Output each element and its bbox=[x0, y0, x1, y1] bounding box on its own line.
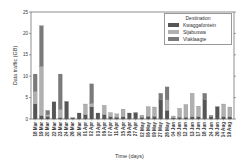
bar-segment bbox=[178, 117, 182, 119]
bar-segment bbox=[71, 118, 75, 119]
bar-segment bbox=[115, 117, 119, 119]
bar-segment bbox=[171, 118, 175, 119]
legend-swatch bbox=[168, 37, 179, 41]
y-tick-label: 0 bbox=[25, 117, 28, 122]
bar-segment bbox=[115, 114, 119, 117]
y-tick-label: 20 bbox=[23, 31, 29, 36]
x-tick-label: 03 Apr bbox=[96, 122, 101, 136]
bar-segment bbox=[222, 117, 226, 119]
bar-segment bbox=[203, 100, 207, 119]
x-tick-label: 11 Apr bbox=[114, 122, 119, 136]
bar-segment bbox=[46, 115, 50, 117]
bar-segment bbox=[146, 107, 150, 117]
legend-swatch bbox=[168, 23, 179, 27]
bar-segment bbox=[58, 109, 62, 118]
x-tick-label: 05 Jun bbox=[177, 122, 182, 137]
bar-segment bbox=[90, 84, 94, 103]
y-axis-label: Data traffic (GB) bbox=[12, 46, 18, 86]
x-tick-label: 26 Apr bbox=[127, 122, 132, 136]
bar-segment bbox=[102, 105, 106, 114]
legend-label: Vlaklaagte bbox=[183, 36, 206, 42]
x-tick-label: 18 Mar bbox=[33, 122, 38, 137]
legend: Destination Kwaggafontein Sijabuswa Vlak… bbox=[164, 13, 232, 45]
bar-segment bbox=[109, 117, 113, 119]
x-tick-label: 04 Jun bbox=[171, 122, 176, 137]
bar-segment bbox=[52, 102, 56, 119]
y-tick-label: 5 bbox=[25, 95, 28, 100]
bar-segment bbox=[121, 117, 125, 119]
bar-segment bbox=[39, 66, 43, 115]
bar-segment bbox=[165, 110, 169, 119]
bar-segment bbox=[33, 91, 37, 104]
bar-segment bbox=[153, 107, 157, 116]
bar-segment bbox=[90, 107, 94, 119]
bar-segment bbox=[159, 100, 163, 119]
bar-segment bbox=[83, 104, 87, 115]
bar-segment bbox=[39, 116, 43, 119]
bar-segment bbox=[46, 110, 50, 114]
x-tick-label: 09 May bbox=[152, 122, 157, 138]
bar-segment bbox=[146, 116, 150, 119]
x-tick-label: 14 Aug bbox=[221, 122, 226, 137]
bar-segment bbox=[65, 101, 69, 119]
x-tick-label: 23 Mar bbox=[58, 122, 63, 137]
bar-segment bbox=[39, 26, 43, 67]
x-tick-label: 02 Apr bbox=[89, 122, 94, 136]
x-tick-label: 15 Apr bbox=[121, 122, 126, 136]
bar-segment bbox=[127, 113, 131, 119]
bar-segment bbox=[159, 93, 163, 99]
bar-segment bbox=[58, 118, 62, 119]
bar-segment bbox=[102, 115, 106, 119]
x-tick-label: 17 Jun bbox=[196, 122, 201, 137]
bar-segment bbox=[203, 93, 207, 99]
x-axis-label: Time (days) bbox=[115, 153, 144, 159]
bar-segment bbox=[153, 116, 157, 119]
bar-segment bbox=[190, 93, 194, 117]
bar-segment bbox=[209, 116, 213, 119]
x-tick-label: 13 Jun bbox=[190, 122, 195, 137]
x-tick-label: 12 Jun bbox=[183, 122, 188, 137]
bar-segment bbox=[171, 116, 175, 118]
bar-segment bbox=[33, 74, 37, 91]
bar-segment bbox=[46, 116, 50, 119]
x-tick-label: 19 Aug bbox=[227, 122, 232, 137]
bar-segment bbox=[197, 106, 201, 117]
bar-segment bbox=[228, 117, 232, 119]
legend-swatch bbox=[168, 30, 179, 34]
bar-segment bbox=[90, 103, 94, 107]
bar-segment bbox=[184, 117, 188, 119]
bar-segment bbox=[140, 117, 144, 119]
x-tick-label: 20 Mar bbox=[45, 122, 50, 137]
bar-segment bbox=[197, 117, 201, 119]
bar-segment bbox=[190, 117, 194, 119]
bar-segment bbox=[121, 109, 125, 117]
x-tick-label: 06 May bbox=[146, 122, 151, 138]
x-tick-label: 07 Apr bbox=[108, 122, 113, 136]
bar-segment bbox=[83, 115, 87, 119]
bar-segment bbox=[33, 104, 37, 119]
bar-segment bbox=[109, 113, 113, 117]
bar-segment bbox=[134, 113, 138, 119]
legend-item-sijabuswa: Sijabuswa bbox=[168, 28, 228, 35]
bar-segment bbox=[165, 100, 169, 111]
x-tick-label: 27 Apr bbox=[133, 122, 138, 136]
bar-segment bbox=[140, 115, 144, 117]
y-tick-label: 25 bbox=[23, 10, 29, 15]
bar-segment bbox=[77, 113, 81, 119]
x-tick-label: 02 May bbox=[140, 122, 145, 138]
legend-label: Sijabuswa bbox=[183, 29, 206, 35]
x-tick-label: 06 Apr bbox=[102, 122, 107, 136]
bar-segment bbox=[215, 107, 219, 119]
bar-segment bbox=[178, 108, 182, 117]
bar-segment bbox=[96, 113, 100, 119]
x-tick-label: 26 Mar bbox=[70, 122, 75, 137]
bar-segment bbox=[209, 115, 213, 116]
x-tick-label: 24 Jun bbox=[209, 122, 214, 137]
x-tick-label: 19 Mar bbox=[39, 122, 44, 137]
x-tick-label: 27 May bbox=[158, 122, 163, 138]
bar-segment bbox=[222, 104, 226, 117]
bar-segment bbox=[184, 104, 188, 117]
legend-label: Kwaggafontein bbox=[183, 22, 216, 28]
bar-segment bbox=[228, 107, 232, 117]
x-tick-label: 28 May bbox=[165, 122, 170, 138]
